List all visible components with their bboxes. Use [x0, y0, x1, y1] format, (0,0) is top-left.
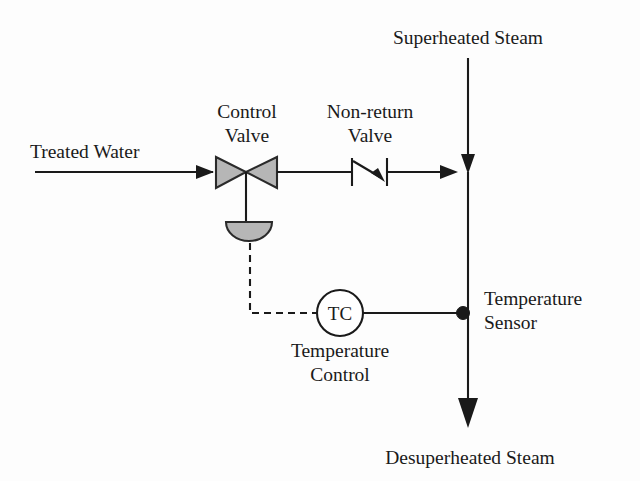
valve-outlet-pipe [277, 165, 458, 179]
instrument-tag-label: TC [328, 303, 352, 324]
control-valve-left-triangle [216, 157, 246, 188]
check-valve-arrow-icon [371, 168, 385, 182]
treated-water-pipe [35, 165, 214, 179]
superheated-steam-label: Superheated Steam [393, 27, 543, 48]
process-flow-diagram: TC Treated Water Control Valve Non-retur… [0, 0, 640, 481]
diaphragm-actuator-icon [226, 222, 272, 241]
control-valve-right-triangle [246, 157, 277, 188]
control-valve-label-line2: Valve [225, 125, 269, 146]
water-into-header-arrow-icon [440, 165, 458, 179]
control-valve-label-line1: Control [217, 101, 277, 122]
non-return-valve-label-line2: Valve [348, 125, 392, 146]
steam-header-pipe [458, 58, 478, 428]
control-valve[interactable] [216, 157, 277, 241]
diagram-root: TC Treated Water Control Valve Non-retur… [0, 0, 640, 481]
temperature-controller[interactable]: TC [317, 290, 363, 336]
treated-water-label: Treated Water [30, 141, 140, 162]
non-return-valve[interactable] [352, 158, 387, 186]
temperature-sensor-label-line1: Temperature [484, 288, 582, 309]
desuperheated-steam-arrow-icon [458, 398, 478, 428]
treated-water-arrow-icon [196, 165, 214, 179]
temperature-sensor-label-line2: Sensor [484, 312, 538, 333]
superheated-steam-arrow-icon [461, 154, 475, 174]
non-return-valve-label-line1: Non-return [327, 101, 414, 122]
desuperheated-steam-label: Desuperheated Steam [385, 447, 554, 468]
temperature-control-label-line2: Control [310, 364, 370, 385]
temperature-control-label-line1: Temperature [291, 340, 389, 361]
control-signal-line [250, 243, 317, 313]
